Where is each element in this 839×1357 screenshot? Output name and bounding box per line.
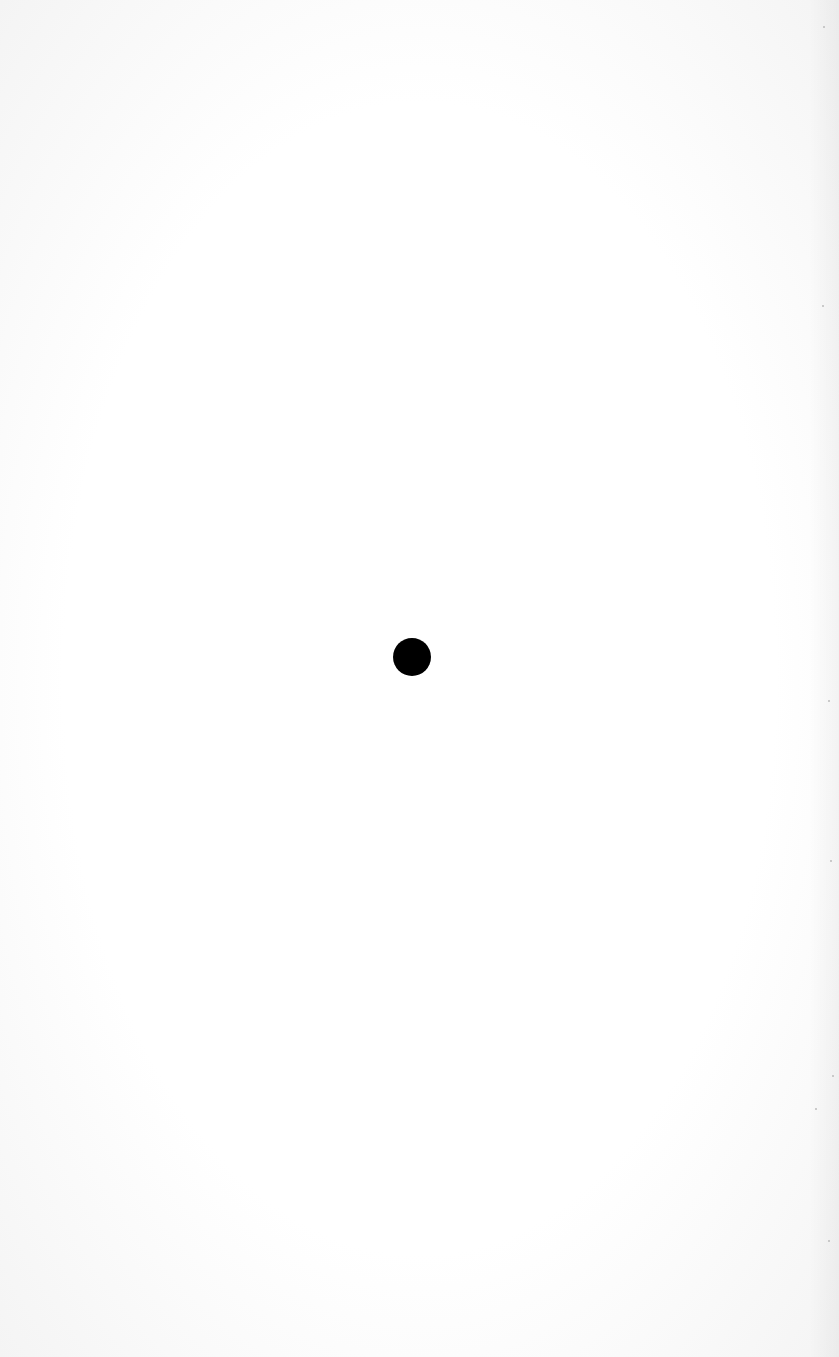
scan-speck [822,305,824,307]
scan-speck [815,1108,817,1110]
scan-speck [828,700,830,702]
black-dot [393,638,431,676]
scan-speck [828,1240,830,1242]
scan-speck [830,860,832,862]
scan-speck [832,1075,834,1077]
page-edge-shadow [809,0,839,1357]
scanned-page [0,0,839,1357]
scan-speck [823,26,825,28]
